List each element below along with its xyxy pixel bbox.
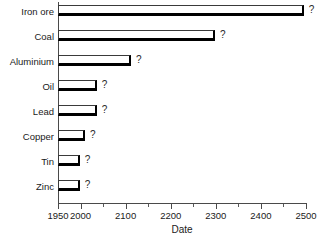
- x-tick-label: 1950: [47, 210, 68, 221]
- value-axis-line: [58, 203, 307, 204]
- x-tick-label: 2400: [250, 210, 271, 221]
- x-tick-label: 2200: [160, 210, 181, 221]
- x-tick-major: [58, 204, 59, 209]
- bar-row: Lead?: [0, 102, 323, 122]
- category-label: Copper: [23, 132, 54, 142]
- category-label: Oil: [42, 82, 54, 92]
- category-label: Lead: [33, 107, 54, 117]
- bar: [58, 30, 215, 41]
- x-tick-minor: [148, 204, 149, 207]
- bar-value-annotation: ?: [102, 79, 108, 91]
- bar: [58, 130, 85, 141]
- x-tick-minor: [103, 204, 104, 207]
- x-tick-label: 2000: [70, 210, 91, 221]
- category-label: Tin: [41, 157, 54, 167]
- bar-value-annotation: ?: [220, 29, 226, 41]
- x-tick-minor: [193, 204, 194, 207]
- bar: [58, 80, 97, 91]
- bar: [58, 155, 80, 166]
- bar-value-annotation: ?: [85, 154, 91, 166]
- category-label: Coal: [34, 32, 54, 42]
- bar-row: Copper?: [0, 127, 323, 147]
- x-tick-major: [126, 204, 127, 209]
- bar-row: Coal?: [0, 27, 323, 47]
- bar: [58, 180, 80, 191]
- x-tick-major: [216, 204, 217, 209]
- plot-area: Iron ore?Coal?Aluminium?Oil?Lead?Copper?…: [0, 0, 323, 240]
- bar-value-annotation: ?: [102, 104, 108, 116]
- category-label: Zinc: [36, 182, 54, 192]
- x-tick-minor: [238, 204, 239, 207]
- bar-row: Iron ore?: [0, 2, 323, 22]
- category-label: Aluminium: [10, 57, 54, 67]
- bar-row: Zinc?: [0, 177, 323, 197]
- x-tick-major: [306, 204, 307, 209]
- bar-row: Aluminium?: [0, 52, 323, 72]
- x-tick-label: 2500: [295, 210, 316, 221]
- x-tick-major: [171, 204, 172, 209]
- category-label: Iron ore: [21, 7, 54, 17]
- x-axis-title: Date: [171, 224, 192, 236]
- bar: [58, 105, 97, 116]
- resource-depletion-bar-chart: Iron ore?Coal?Aluminium?Oil?Lead?Copper?…: [0, 0, 323, 240]
- bar-value-annotation: ?: [309, 4, 315, 16]
- bar: [58, 5, 304, 16]
- bar-row: Oil?: [0, 77, 323, 97]
- bar-value-annotation: ?: [136, 54, 142, 66]
- x-tick-minor: [283, 204, 284, 207]
- bar: [58, 55, 131, 66]
- x-tick-major: [81, 204, 82, 209]
- x-tick-major: [261, 204, 262, 209]
- x-tick-label: 2300: [205, 210, 226, 221]
- x-tick-label: 2100: [115, 210, 136, 221]
- bar-row: Tin?: [0, 152, 323, 172]
- bar-value-annotation: ?: [90, 129, 96, 141]
- bar-value-annotation: ?: [85, 179, 91, 191]
